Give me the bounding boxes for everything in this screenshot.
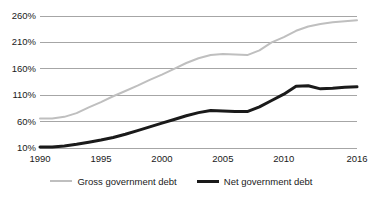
legend-label: Net government debt bbox=[224, 176, 313, 187]
series-line-gross bbox=[40, 20, 357, 118]
line-gray-icon bbox=[50, 180, 72, 182]
y-axis-tick-label: 110% bbox=[2, 90, 36, 100]
x-axis-tick-label: 1990 bbox=[20, 154, 60, 164]
y-axis-tick-label: 160% bbox=[2, 64, 36, 74]
gridlines bbox=[40, 16, 357, 148]
legend-label: Gross government debt bbox=[77, 176, 176, 187]
legend-item[interactable]: Gross government debt bbox=[50, 176, 176, 187]
y-axis-tick-label: 210% bbox=[2, 37, 36, 47]
legend-item[interactable]: Net government debt bbox=[197, 176, 313, 187]
line-black-icon bbox=[197, 180, 219, 183]
y-axis-tick-label: 60% bbox=[2, 117, 36, 127]
series-lines bbox=[40, 20, 357, 147]
x-axis-tick-label: 2016 bbox=[337, 154, 372, 164]
y-axis-tick-label: 260% bbox=[2, 11, 36, 21]
y-axis-tick-label: 10% bbox=[2, 143, 36, 153]
x-axis-tick-label: 1995 bbox=[81, 154, 121, 164]
x-axis-tick-label: 2000 bbox=[142, 154, 182, 164]
x-axis-tick-label: 2010 bbox=[264, 154, 304, 164]
x-axis-tick-label: 2005 bbox=[203, 154, 243, 164]
chart-legend: Gross government debtNet government debt bbox=[0, 172, 363, 190]
